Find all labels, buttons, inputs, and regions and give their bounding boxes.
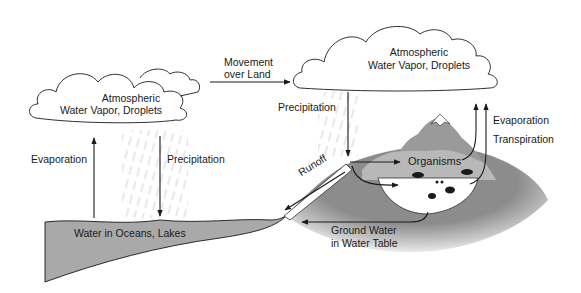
organisms-label: Organisms (408, 155, 461, 167)
ocean-shape (45, 216, 286, 282)
ocean-label: Water in Oceans, Lakes (74, 227, 186, 239)
movement-label-1: Movement (224, 56, 273, 68)
movement-label-2: over Land (224, 68, 271, 80)
evaporation-right-label: Evaporation (493, 114, 549, 126)
groundwater-label-2: in Water Table (331, 237, 398, 249)
left-rain (122, 130, 188, 218)
water-cycle-diagram (0, 0, 581, 293)
groundwater-label-1: Ground Water (331, 224, 397, 236)
right-cloud-label-2: Water Vapor, Droplets (354, 59, 484, 71)
precipitation-left-label: Precipitation (167, 153, 225, 165)
transpiration-label: Transpiration (493, 133, 554, 145)
right-cloud-label-1: Atmospheric (354, 46, 484, 58)
precipitation-right-label: Precipitation (278, 101, 336, 113)
evaporation-left-label: Evaporation (31, 153, 87, 165)
left-cloud-label-2: Water Vapor, Droplets (46, 104, 176, 116)
left-cloud-label-1: Atmospheric (66, 92, 196, 104)
